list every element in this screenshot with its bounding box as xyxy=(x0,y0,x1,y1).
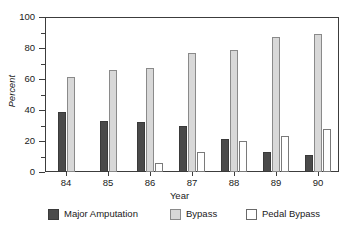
y-tick-major xyxy=(39,17,45,18)
y-tick-major xyxy=(39,79,45,80)
x-axis-title: Year xyxy=(0,190,359,201)
legend-label: Bypass xyxy=(186,209,217,219)
y-tick-label: 80 xyxy=(3,43,35,53)
legend-item: Pedal Bypass xyxy=(246,206,320,222)
bar-90-pedal xyxy=(323,129,331,172)
y-tick-major xyxy=(39,110,45,111)
y-tick-minor xyxy=(41,33,45,34)
bar-84-amp xyxy=(58,112,66,172)
y-tick-minor xyxy=(41,157,45,158)
x-tick-label: 86 xyxy=(135,178,165,188)
bar-89-amp xyxy=(263,152,271,172)
legend-label: Pedal Bypass xyxy=(262,209,320,219)
x-tick-label: 87 xyxy=(177,178,207,188)
x-tick-label: 90 xyxy=(303,178,333,188)
y-tick-label: 60 xyxy=(3,74,35,84)
x-tick xyxy=(66,172,67,176)
y-tick-label: 40 xyxy=(3,105,35,115)
x-tick xyxy=(234,172,235,176)
x-tick xyxy=(318,172,319,176)
legend-item: Bypass xyxy=(170,206,217,222)
y-tick-minor xyxy=(41,95,45,96)
bar-85-amp xyxy=(100,121,108,172)
bar-89-bypass xyxy=(272,37,280,172)
legend-swatch-icon xyxy=(48,209,59,220)
bar-86-pedal xyxy=(155,163,163,172)
bar-88-amp xyxy=(221,139,229,172)
x-tick-label: 85 xyxy=(93,178,123,188)
bar-86-bypass xyxy=(146,68,154,172)
x-tick xyxy=(150,172,151,176)
bar-84-bypass xyxy=(67,77,75,172)
y-tick-minor xyxy=(41,64,45,65)
bar-90-bypass xyxy=(314,34,322,172)
y-tick-minor xyxy=(41,126,45,127)
x-tick-label: 84 xyxy=(51,178,81,188)
y-tick-major xyxy=(39,172,45,173)
y-tick-label: 0 xyxy=(3,167,35,177)
bar-90-amp xyxy=(305,155,313,172)
bar-86-amp xyxy=(137,122,145,172)
bar-89-pedal xyxy=(281,136,289,172)
y-tick-label: 20 xyxy=(3,136,35,146)
bar-chart-figure: Percent 020406080100 84858687888990 Year… xyxy=(0,0,359,238)
bar-88-pedal xyxy=(239,141,247,172)
bar-88-bypass xyxy=(230,50,238,172)
x-tick-label: 89 xyxy=(261,178,291,188)
legend-swatch-icon xyxy=(170,209,181,220)
y-tick-major xyxy=(39,141,45,142)
bar-87-amp xyxy=(179,126,187,173)
legend-label: Major Amputation xyxy=(64,209,138,219)
legend-swatch-icon xyxy=(246,209,257,220)
x-tick-label: 88 xyxy=(219,178,249,188)
bar-87-bypass xyxy=(188,53,196,172)
legend-item: Major Amputation xyxy=(48,206,138,222)
chart-legend: Major AmputationBypassPedal Bypass xyxy=(0,206,359,226)
bar-85-bypass xyxy=(109,70,117,172)
bar-87-pedal xyxy=(197,152,205,172)
y-tick-label: 100 xyxy=(3,12,35,22)
x-tick xyxy=(108,172,109,176)
x-tick xyxy=(276,172,277,176)
x-tick xyxy=(192,172,193,176)
y-tick-major xyxy=(39,48,45,49)
